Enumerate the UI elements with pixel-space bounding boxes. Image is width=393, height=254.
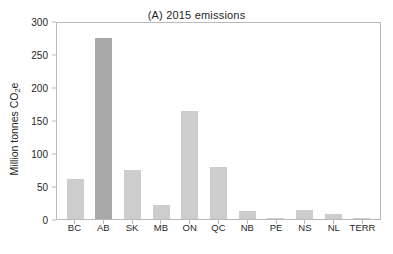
bar-terr[interactable] xyxy=(353,218,370,219)
bar-bc[interactable] xyxy=(67,179,84,219)
y-axis-tick-label: 300 xyxy=(31,17,48,28)
bar-slot-qc xyxy=(204,21,233,219)
x-axis-tick-label-pe: PE xyxy=(262,222,291,242)
y-axis-tick-label: 100 xyxy=(31,149,48,160)
bar-slot-nb xyxy=(233,21,262,219)
x-axis-tick-label-nb: NB xyxy=(233,222,262,242)
bar-slot-ab xyxy=(90,21,119,219)
bar-on[interactable] xyxy=(181,111,198,219)
emissions-bar-chart-figure: (A) 2015 emissions Million tonnes CO2e 0… xyxy=(0,0,393,254)
bar-nl[interactable] xyxy=(325,214,342,219)
y-axis-tick-label: 150 xyxy=(31,116,48,127)
y-axis-ticks: 050100150200250300 xyxy=(0,22,56,220)
bar-pe[interactable] xyxy=(267,218,284,219)
bar-slot-pe xyxy=(261,21,290,219)
bar-slot-sk xyxy=(118,21,147,219)
x-axis-tick-label-sk: SK xyxy=(118,222,147,242)
bar-slot-nl xyxy=(319,21,348,219)
bar-series xyxy=(57,21,380,219)
x-axis-tick-label-on: ON xyxy=(175,222,204,242)
x-axis-tick-label-nl: NL xyxy=(319,222,348,242)
bar-slot-terr xyxy=(347,21,376,219)
x-axis-tick-label-terr: TERR xyxy=(348,222,377,242)
x-axis-tick-label-mb: MB xyxy=(146,222,175,242)
x-axis-tick-label-ns: NS xyxy=(291,222,320,242)
chart-title: (A) 2015 emissions xyxy=(0,9,393,21)
x-axis-tick-label-ab: AB xyxy=(89,222,118,242)
bar-ns[interactable] xyxy=(296,210,313,219)
y-axis-tick-label: 0 xyxy=(42,215,48,226)
bar-sk[interactable] xyxy=(124,170,141,219)
bar-slot-ns xyxy=(290,21,319,219)
bar-mb[interactable] xyxy=(153,205,170,219)
y-axis-tick-label: 250 xyxy=(31,50,48,61)
y-axis-tick-label: 50 xyxy=(37,182,48,193)
bar-ab[interactable] xyxy=(95,38,112,219)
y-axis-tick-label: 200 xyxy=(31,83,48,94)
bar-qc[interactable] xyxy=(210,167,227,219)
x-axis-tick-labels: BCABSKMBONQCNBPENSNLTERR xyxy=(56,222,381,242)
bar-slot-bc xyxy=(61,21,90,219)
bar-slot-mb xyxy=(147,21,176,219)
x-axis-tick-label-qc: QC xyxy=(204,222,233,242)
bar-nb[interactable] xyxy=(239,211,256,219)
bar-slot-on xyxy=(176,21,205,219)
plot-area xyxy=(56,22,381,220)
x-axis-tick-label-bc: BC xyxy=(60,222,89,242)
